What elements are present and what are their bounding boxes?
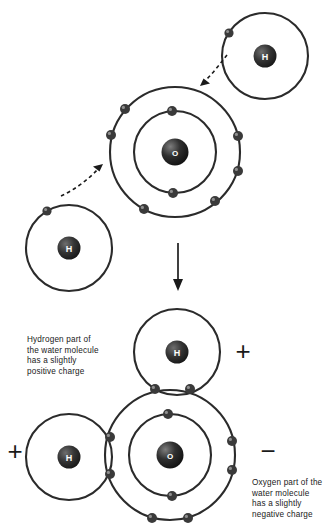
electron [147, 513, 157, 523]
oxygen-nucleus: O [157, 442, 184, 469]
electron [120, 104, 130, 114]
nucleus-symbol-o: O [172, 149, 178, 158]
downward-transition-arrow-icon [173, 243, 183, 291]
diagram-canvas: H [0, 0, 334, 532]
top-panel-group: H [26, 13, 308, 291]
atom-hydrogen-top: H [134, 309, 220, 395]
oxygen-nucleus: O [162, 139, 189, 166]
shared-electron [105, 469, 115, 479]
charge-symbol-positive-top: + [228, 338, 258, 364]
atom-hydrogen-left: H [26, 414, 115, 500]
nucleus-symbol-h: H [174, 348, 181, 358]
atom-hydrogen-top-right: H [222, 13, 308, 99]
electron [139, 204, 149, 214]
nucleus-symbol-h: H [262, 52, 269, 62]
nucleus-symbol-o: O [167, 452, 173, 461]
electron [42, 206, 51, 215]
electron [210, 196, 220, 206]
electron [227, 465, 237, 475]
hydrogen-nucleus: H [58, 446, 81, 469]
electron [224, 28, 233, 37]
hydrogen-charge-caption: Hydrogen part of the water molecule has … [27, 335, 142, 377]
electron [168, 188, 178, 198]
nucleus-symbol-h: H [66, 244, 73, 254]
atom-oxygen-center: O [106, 87, 243, 217]
shared-electron [185, 384, 195, 394]
electron [233, 166, 243, 176]
oxygen-charge-caption: Oxygen part of the water molecule has a … [252, 478, 334, 520]
hydrogen-nucleus: H [58, 237, 81, 260]
electron [167, 106, 177, 116]
hydrogen-nucleus: H [166, 341, 189, 364]
electron [183, 513, 193, 523]
electron [163, 409, 173, 419]
charge-symbol-negative-right: − [253, 438, 283, 464]
atom-hydrogen-bottom-left: H [26, 205, 112, 291]
nucleus-symbol-h: H [66, 453, 73, 463]
water-molecule-diagram: H [0, 0, 334, 532]
electron-share-arrow-lower-left-icon [61, 164, 103, 196]
electron [233, 131, 243, 141]
electron [106, 130, 116, 140]
electron [167, 491, 177, 501]
shared-electron [105, 432, 115, 442]
shared-electron [150, 384, 160, 394]
electron [227, 436, 237, 446]
atom-oxygen-bottom: O [105, 390, 237, 523]
charge-symbol-positive-left: + [0, 438, 30, 464]
hydrogen-nucleus: H [254, 45, 277, 68]
